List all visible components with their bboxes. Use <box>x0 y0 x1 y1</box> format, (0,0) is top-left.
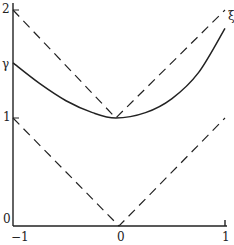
y-tick-label-1: 1 <box>3 111 11 123</box>
series-upper-dashed-V-line <box>13 10 225 118</box>
y-annotation-gamma: γ <box>2 58 9 70</box>
curve-label-xi: ξ <box>228 10 234 22</box>
x-tick-label-minus-1: −1 <box>11 231 29 243</box>
plot-lines <box>13 10 225 226</box>
x-tick-label-0: 0 <box>117 231 125 243</box>
y-tick-label-0: 0 <box>3 213 11 225</box>
series-lower-dashed-V-line <box>13 118 225 226</box>
x-tick-label-1: 1 <box>222 231 230 243</box>
chart <box>0 0 234 245</box>
y-tick-label-2: 2 <box>2 3 10 15</box>
